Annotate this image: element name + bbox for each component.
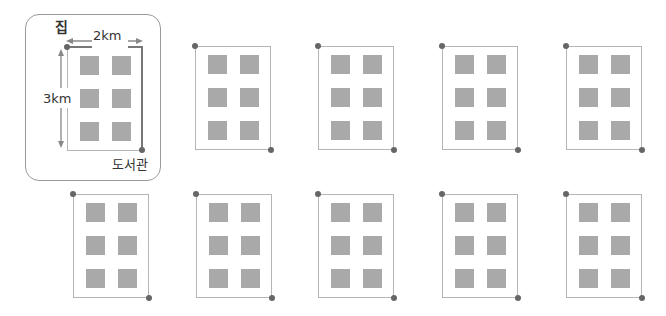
building-square bbox=[209, 236, 228, 255]
building-square bbox=[80, 56, 99, 75]
end-dot bbox=[639, 147, 645, 153]
building-square bbox=[487, 269, 506, 288]
building-square bbox=[611, 121, 630, 140]
building-square bbox=[363, 55, 382, 74]
building-square bbox=[611, 55, 630, 74]
building-square bbox=[579, 269, 598, 288]
end-dot bbox=[639, 295, 645, 301]
building-square bbox=[118, 269, 137, 288]
building-square bbox=[112, 89, 131, 108]
building-square bbox=[487, 236, 506, 255]
building-square bbox=[208, 88, 227, 107]
building-square bbox=[611, 88, 630, 107]
building-square bbox=[331, 121, 350, 140]
start-dot bbox=[563, 191, 569, 197]
city-block bbox=[196, 194, 272, 298]
building-square bbox=[331, 55, 350, 74]
building-square bbox=[209, 203, 228, 222]
start-dot bbox=[439, 43, 445, 49]
city-block bbox=[195, 46, 271, 150]
building-square bbox=[209, 269, 228, 288]
start-dot bbox=[70, 191, 76, 197]
start-dot bbox=[315, 43, 321, 49]
building-square bbox=[455, 121, 474, 140]
city-block bbox=[318, 194, 394, 298]
building-square bbox=[611, 269, 630, 288]
building-square bbox=[455, 236, 474, 255]
building-square bbox=[611, 203, 630, 222]
building-square bbox=[86, 269, 105, 288]
end-dot bbox=[391, 295, 397, 301]
city-block bbox=[442, 194, 518, 298]
building-square bbox=[455, 55, 474, 74]
building-square bbox=[579, 236, 598, 255]
building-square bbox=[579, 55, 598, 74]
city-block bbox=[566, 46, 642, 150]
building-square bbox=[86, 203, 105, 222]
building-square bbox=[241, 269, 260, 288]
start-dot bbox=[563, 43, 569, 49]
city-block bbox=[566, 194, 642, 298]
building-square bbox=[80, 122, 99, 141]
building-square bbox=[118, 236, 137, 255]
building-square bbox=[86, 236, 105, 255]
building-square bbox=[611, 236, 630, 255]
city-block bbox=[318, 46, 394, 150]
building-square bbox=[240, 121, 259, 140]
building-square bbox=[363, 121, 382, 140]
end-dot bbox=[515, 295, 521, 301]
end-dot bbox=[269, 295, 275, 301]
start-dot bbox=[193, 191, 199, 197]
building-square bbox=[455, 88, 474, 107]
end-dot bbox=[146, 295, 152, 301]
start-dot bbox=[315, 191, 321, 197]
building-square bbox=[455, 269, 474, 288]
building-square bbox=[455, 203, 474, 222]
height-label: 3km bbox=[43, 92, 71, 105]
building-square bbox=[487, 88, 506, 107]
building-square bbox=[487, 121, 506, 140]
building-square bbox=[112, 56, 131, 75]
building-square bbox=[579, 88, 598, 107]
building-square bbox=[118, 203, 137, 222]
building-square bbox=[363, 203, 382, 222]
start-dot bbox=[64, 44, 70, 50]
start-dot bbox=[439, 191, 445, 197]
building-square bbox=[208, 55, 227, 74]
end-dot bbox=[391, 147, 397, 153]
building-square bbox=[241, 203, 260, 222]
city-block bbox=[73, 194, 149, 298]
building-square bbox=[241, 236, 260, 255]
building-square bbox=[363, 269, 382, 288]
end-dot bbox=[139, 147, 145, 153]
building-square bbox=[208, 121, 227, 140]
city-block bbox=[442, 46, 518, 150]
building-square bbox=[579, 203, 598, 222]
building-square bbox=[487, 55, 506, 74]
building-square bbox=[363, 88, 382, 107]
building-square bbox=[487, 203, 506, 222]
building-square bbox=[331, 269, 350, 288]
end-dot bbox=[268, 147, 274, 153]
home-label: 집 bbox=[55, 20, 68, 34]
building-square bbox=[331, 203, 350, 222]
building-square bbox=[363, 236, 382, 255]
start-dot bbox=[192, 43, 198, 49]
library-label: 도서관 bbox=[112, 158, 148, 171]
end-dot bbox=[515, 147, 521, 153]
building-square bbox=[331, 88, 350, 107]
building-square bbox=[240, 55, 259, 74]
width-label: 2km bbox=[93, 29, 121, 42]
building-square bbox=[112, 122, 131, 141]
building-square bbox=[579, 121, 598, 140]
building-square bbox=[331, 236, 350, 255]
building-square bbox=[240, 88, 259, 107]
building-square bbox=[80, 89, 99, 108]
